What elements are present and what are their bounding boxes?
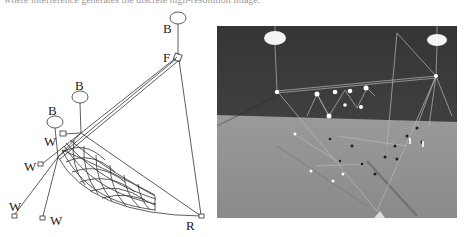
winch-icon — [60, 131, 66, 136]
focus-label: F — [163, 50, 170, 65]
rig-photograph — [217, 26, 457, 218]
winch-label: W — [44, 134, 57, 149]
rig-schematic-diagram: B B B F R W W W W — [0, 0, 215, 237]
winch-icon — [12, 214, 17, 218]
balloon-icon — [264, 31, 286, 45]
balloon-icon — [427, 34, 447, 46]
receiver-label: R — [186, 218, 195, 233]
balloon-label: B — [75, 78, 84, 93]
receiver-node-icon — [199, 214, 204, 218]
winch-label: W — [24, 159, 37, 174]
balloon-label: B — [163, 21, 172, 36]
balloon-label: B — [48, 103, 57, 118]
winch-label: W — [50, 213, 63, 228]
winch-icon — [38, 162, 43, 166]
balloon-icon — [170, 12, 186, 24]
winch-icon — [40, 216, 45, 220]
winch-label: W — [9, 199, 22, 214]
